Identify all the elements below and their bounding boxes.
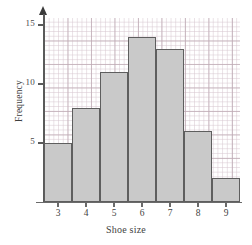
bar xyxy=(184,131,212,202)
x-axis-tick xyxy=(169,202,170,207)
histogram-figure: 51015 3456789 Frequency Shoe size xyxy=(0,0,252,245)
x-axis-tick-label: 5 xyxy=(104,208,124,218)
x-axis-tick-label: 6 xyxy=(132,208,152,218)
y-axis-tick-label: 10 xyxy=(25,77,35,87)
x-axis-tick xyxy=(141,202,142,207)
x-axis-tick-label: 4 xyxy=(76,208,96,218)
bar xyxy=(72,108,100,202)
x-axis-tick xyxy=(57,202,58,207)
x-axis-tick xyxy=(225,202,226,207)
bar xyxy=(44,143,72,202)
x-axis-tick-label: 3 xyxy=(48,208,68,218)
x-axis-tick xyxy=(197,202,198,207)
y-axis-tick-label: 5 xyxy=(30,136,35,146)
y-axis-tick: 15 xyxy=(38,24,44,25)
y-axis-tick-label: 15 xyxy=(25,18,35,28)
bar xyxy=(100,72,128,202)
x-axis-title: Shoe size xyxy=(0,224,252,235)
x-axis-tick xyxy=(113,202,114,207)
bar xyxy=(156,49,184,202)
y-axis-title: Frequency xyxy=(14,56,24,146)
x-axis-tick xyxy=(85,202,86,207)
y-axis-tick: 10 xyxy=(38,83,44,84)
bar xyxy=(212,178,240,202)
x-axis-tick-label: 9 xyxy=(216,208,236,218)
bar xyxy=(128,37,156,202)
x-axis-tick-label: 7 xyxy=(160,208,180,218)
x-axis-tick-label: 8 xyxy=(188,208,208,218)
